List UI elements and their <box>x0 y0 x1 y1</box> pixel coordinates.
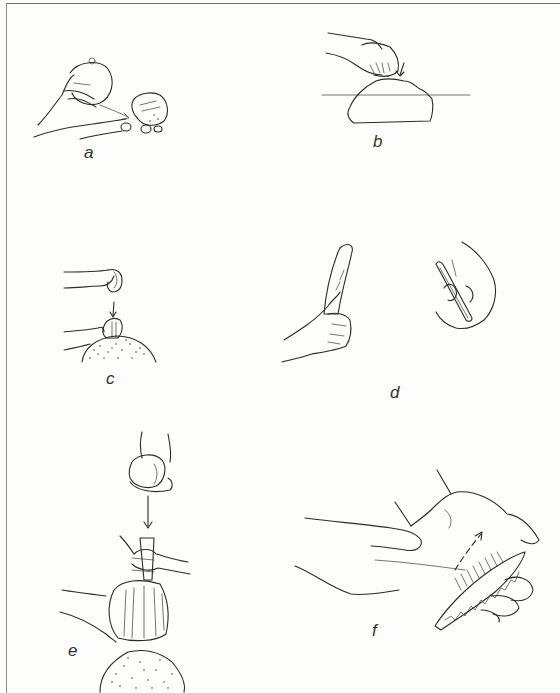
hand-striking-core-on-anvil-icon <box>320 25 470 135</box>
panel-label-b: b <box>373 133 382 150</box>
panel-f-pressure-flaking-blade <box>295 470 545 620</box>
hammerstone-punch-core-anvil-icon <box>60 430 200 693</box>
panel-label-e: e <box>68 642 77 659</box>
left-border-rule <box>6 3 7 693</box>
hand-hammerstone-core-drawing-icon <box>30 55 190 155</box>
panel-a-direct-percussion <box>30 55 190 155</box>
hammerstone-onto-core-anvil-icon <box>60 258 170 364</box>
panel-label-c: c <box>106 370 115 387</box>
panel-b-anvil-percussion <box>320 25 470 135</box>
panel-d-baton-and-pressure-tool <box>280 240 520 380</box>
panel-label-d: d <box>390 384 399 401</box>
panel-label-f: f <box>372 622 377 639</box>
panel-e-indirect-percussion-punch <box>60 430 200 693</box>
panel-c-hammerstone-anvil <box>60 258 170 364</box>
figure-page: a b <box>0 0 560 693</box>
baton-and-pressure-flaker-in-hands-icon <box>280 240 520 380</box>
panel-label-a: a <box>84 144 93 161</box>
top-border-rule <box>6 3 560 4</box>
pressure-flaking-serrated-blade-icon <box>295 470 545 620</box>
